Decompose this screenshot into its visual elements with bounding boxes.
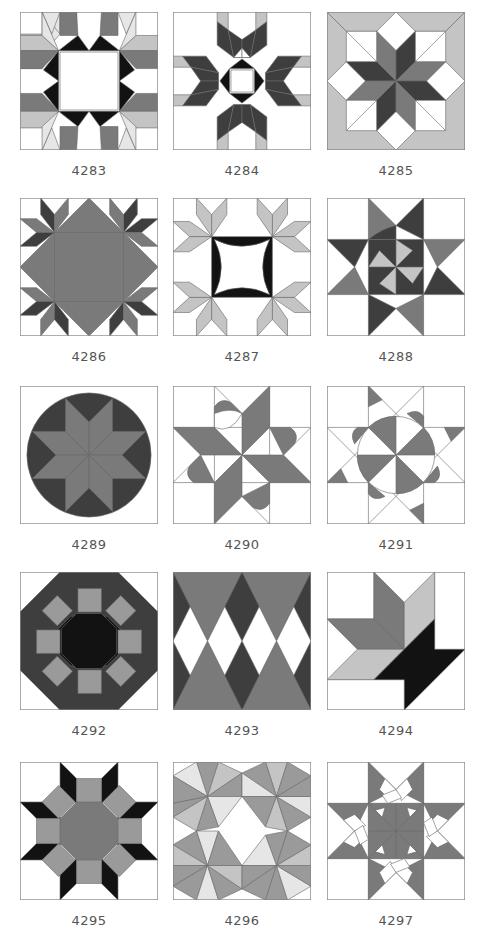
block-number-label: 4286 (20, 349, 158, 364)
block-number-label: 4292 (20, 723, 158, 738)
quilt-block-4287: 4287 (173, 198, 313, 364)
quilt-block-4285: 4285 (327, 12, 467, 178)
block-number-label: 4283 (20, 163, 158, 178)
quilt-block-4292: 4292 (20, 572, 160, 738)
quilt-block-4283: 4283 (20, 12, 160, 178)
quilt-block-4294: 4294 (327, 572, 467, 738)
quilt-block-4296: 4296 (173, 762, 313, 925)
quilt-pattern-4293-image (173, 572, 311, 710)
block-number-label: 4285 (327, 163, 465, 178)
quilt-pattern-4291-image (327, 386, 465, 524)
block-number-label: 4294 (327, 723, 465, 738)
quilt-block-4289: 4289 (20, 386, 160, 552)
block-number-label: 4291 (327, 537, 465, 552)
block-number-label: 4288 (327, 349, 465, 364)
quilt-block-4290: 4290 (173, 386, 313, 552)
quilt-block-4295: 4295 (20, 762, 160, 925)
quilt-block-4293: 4293 (173, 572, 313, 738)
quilt-pattern-4286-image (20, 198, 158, 336)
quilt-pattern-4283-image (20, 12, 158, 150)
quilt-pattern-4285-image (327, 12, 465, 150)
block-number-label: 4297 (327, 913, 465, 925)
quilt-pattern-4294-image (327, 572, 465, 710)
quilt-pattern-4284-image (173, 12, 311, 150)
block-number-label: 4289 (20, 537, 158, 552)
block-number-label: 4290 (173, 537, 311, 552)
quilt-block-4297: 4297 (327, 762, 467, 925)
block-number-label: 4296 (173, 913, 311, 925)
block-number-label: 4295 (20, 913, 158, 925)
quilt-pattern-4290-image (173, 386, 311, 524)
quilt-pattern-4288-image (327, 198, 465, 336)
quilt-pattern-4289-image (20, 386, 158, 524)
quilt-pattern-4296-image (173, 762, 311, 900)
quilt-block-4284: 4284 (173, 12, 313, 178)
block-number-label: 4284 (173, 163, 311, 178)
block-number-label: 4293 (173, 723, 311, 738)
quilt-pattern-4297-image (327, 762, 465, 900)
quilt-pattern-4287-image (173, 198, 311, 336)
quilt-block-4291: 4291 (327, 386, 467, 552)
quilt-block-4286: 4286 (20, 198, 160, 364)
quilt-pattern-4292-image (20, 572, 158, 710)
quilt-pattern-4295-image (20, 762, 158, 900)
block-number-label: 4287 (173, 349, 311, 364)
quilt-block-4288: 4288 (327, 198, 467, 364)
